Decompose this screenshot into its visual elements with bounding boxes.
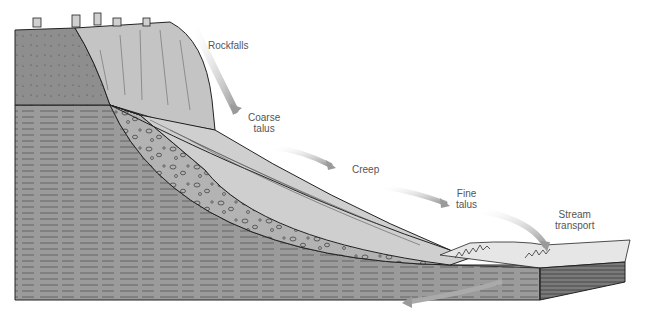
label-coarse-talus-line1: Coarse (248, 112, 280, 123)
mass-wasting-diagram (0, 0, 645, 314)
label-fine-talus-line2: talus (456, 199, 477, 210)
label-stream-transport: Stream transport (555, 209, 594, 231)
label-coarse-talus-line2: talus (248, 123, 280, 134)
creep-arrow (385, 187, 445, 203)
label-rockfalls: Rockfalls (208, 40, 249, 51)
label-stream-transport-line2: transport (555, 220, 594, 231)
label-stream-transport-line1: Stream (555, 209, 594, 220)
label-creep: Creep (352, 164, 379, 175)
floodplain-block-front (540, 262, 625, 300)
coarse-talus-arrow (275, 148, 330, 165)
fine-talus-arrow (482, 211, 545, 245)
label-coarse-talus: Coarse talus (248, 112, 280, 134)
label-fine-talus: Fine talus (456, 188, 477, 210)
label-fine-talus-line1: Fine (456, 188, 477, 199)
